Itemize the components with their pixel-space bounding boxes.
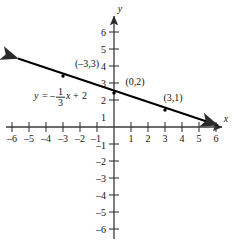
y-tick-label: –6 — [95, 224, 106, 235]
x-tick-labels: –6 –5 –4 –3 –2 –1 1 2 3 4 5 6 — [6, 133, 219, 144]
x-tick-label: 6 — [214, 133, 219, 144]
x-tick-label: 5 — [197, 133, 202, 144]
equation-numerator: 1 — [58, 86, 63, 97]
x-axis-label: x — [223, 113, 229, 124]
x-tick-label: –6 — [6, 133, 17, 144]
point-label-minus3-3: (–3,3) — [75, 58, 99, 70]
graph-canvas: –6 –5 –4 –3 –2 –1 1 2 3 4 5 6 6 5 4 3 2 … — [0, 0, 235, 245]
y-tick-label: –4 — [95, 190, 106, 201]
point-marker — [61, 74, 64, 77]
y-tick-label: 6 — [101, 27, 106, 38]
y-tick-label: 4 — [101, 61, 106, 72]
x-tick-label: 4 — [180, 133, 185, 144]
x-tick-label: –4 — [40, 133, 51, 144]
y-tick-label: 1 — [101, 112, 106, 123]
x-tick-label: 2 — [146, 133, 151, 144]
y-tick-label: –3 — [95, 173, 106, 184]
point-label-3-1: (3,1) — [163, 92, 182, 104]
y-axis-label: y — [117, 3, 123, 14]
equation-denominator: 3 — [58, 97, 63, 108]
x-tick-label: 1 — [129, 133, 134, 144]
point-marker — [163, 108, 166, 111]
equation-lhs: y — [33, 90, 39, 101]
equation-constant: 2 — [82, 90, 87, 101]
equation-plus: + — [73, 90, 79, 101]
x-tick-label: –3 — [57, 133, 68, 144]
x-tick-label: –5 — [23, 133, 34, 144]
equation-annotation: y = – 1 3 x + 2 — [33, 86, 87, 108]
point-marker — [112, 91, 115, 94]
coordinate-plane-figure: –6 –5 –4 –3 –2 –1 1 2 3 4 5 6 6 5 4 3 2 … — [0, 0, 235, 245]
x-tick-label: –2 — [74, 133, 85, 144]
y-tick-label: –2 — [95, 156, 106, 167]
y-tick-label: 5 — [101, 44, 106, 55]
equation-variable: x — [65, 90, 71, 101]
equation-equals: = — [42, 90, 48, 101]
point-label-0-2: (0,2) — [125, 76, 144, 88]
y-tick-label: –1 — [95, 140, 106, 151]
y-tick-label: –5 — [95, 207, 106, 218]
y-tick-label: 2 — [101, 95, 106, 106]
function-line — [18, 59, 218, 126]
equation-minus-sign: – — [49, 90, 56, 101]
x-tick-label: 3 — [163, 133, 168, 144]
